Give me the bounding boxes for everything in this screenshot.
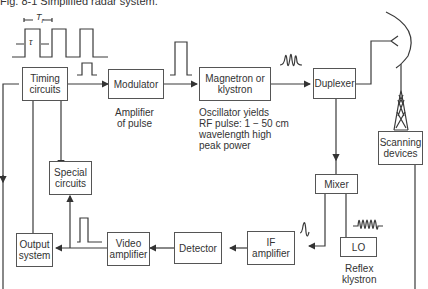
annotation-line: RF pulse: 1 − 50 cm — [199, 118, 289, 129]
pulse-train-waveform — [12, 29, 108, 57]
if-burst-waveform — [300, 223, 309, 236]
period-label: Tr — [36, 12, 44, 24]
lo-block: LO — [340, 237, 377, 257]
output-system-block: Output system — [16, 233, 53, 267]
video-amplifier-block: Video amplifier — [107, 232, 150, 266]
annotation-line: Oscillator yields — [199, 107, 289, 118]
annotation-line: Reflex — [342, 263, 376, 274]
period-subscript: r — [42, 17, 44, 24]
pulse-width-label: τ — [29, 37, 32, 47]
timing-pulse-waveform — [77, 63, 97, 75]
modulator-annotation: Amplifier of pulse — [115, 107, 154, 129]
lo-waveform — [353, 220, 383, 229]
annotation-line: Amplifier — [115, 107, 154, 118]
annotation-line: klystron — [342, 274, 376, 285]
if-amplifier-block: IF amplifier — [247, 231, 295, 265]
detector-block: Detector — [174, 232, 222, 264]
oscillator-annotation: Oscillator yields RF pulse: 1 − 50 cm wa… — [199, 107, 289, 151]
timing-circuits-block: Timing circuits — [22, 67, 68, 101]
modulator-block: Modulator — [108, 69, 164, 99]
annotation-line: of pulse — [115, 118, 154, 129]
duplexer-block: Duplexer — [313, 68, 356, 99]
video-pulse-waveform — [77, 218, 102, 242]
lo-annotation: Reflex klystron — [342, 263, 376, 285]
rf-burst-waveform — [280, 54, 302, 65]
mixer-block: Mixer — [315, 174, 358, 194]
scanning-devices-block: Scanning devices — [378, 131, 423, 165]
modulator-pulse-waveform — [170, 42, 192, 75]
annotation-line: peak power — [199, 140, 289, 151]
annotation-line: wavelength high — [199, 129, 289, 140]
magnetron-block: Magnetron or klystron — [199, 67, 271, 101]
special-circuits-block: Special circuits — [49, 161, 92, 195]
